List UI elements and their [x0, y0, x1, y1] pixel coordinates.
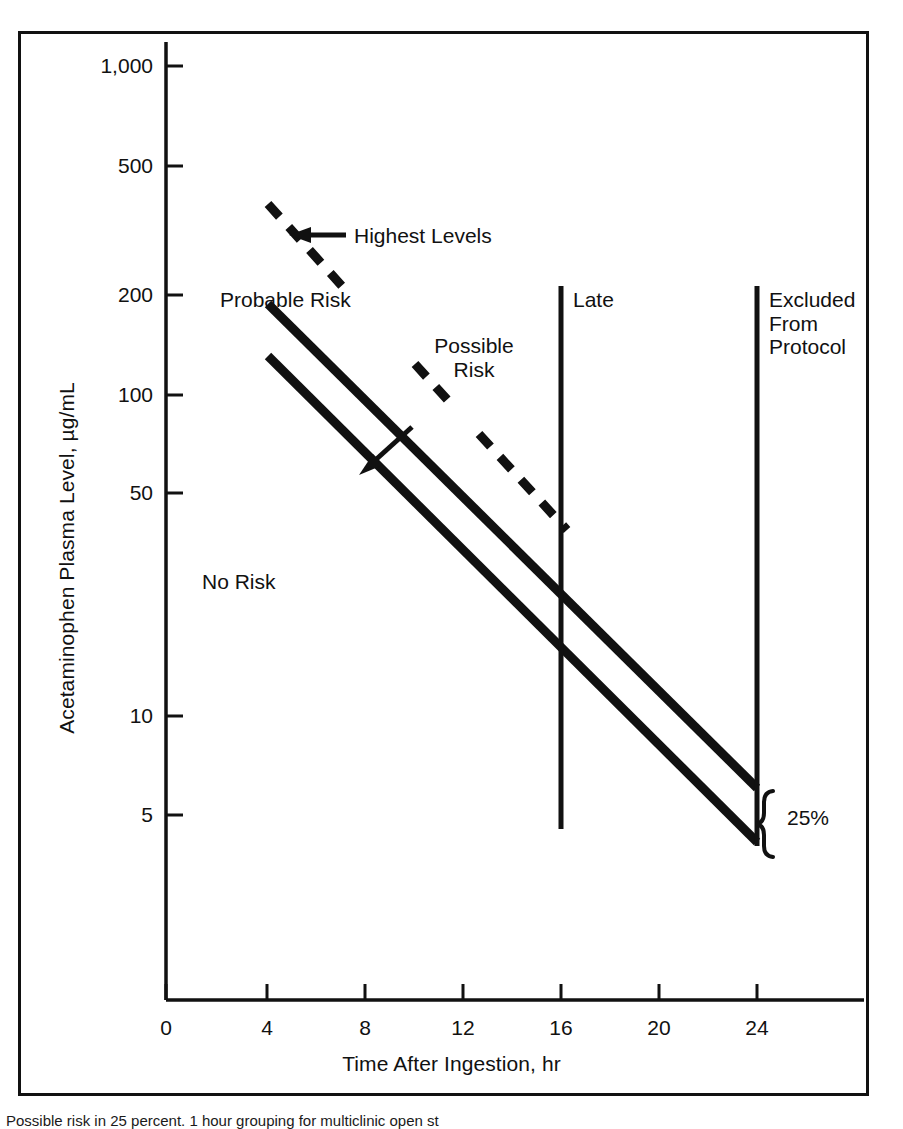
possible-risk-line [268, 356, 757, 842]
highest-levels-dashed-upper [268, 204, 351, 296]
y-tick-label-5: 5 [69, 803, 153, 827]
x-tick-label-4: 4 [261, 1016, 273, 1040]
x-tick-label-8: 8 [359, 1016, 371, 1040]
x-tick-label-20: 20 [647, 1016, 670, 1040]
x-tick-label-16: 16 [549, 1016, 572, 1040]
figure-frame: 1,000 500 200 100 50 10 5 0 4 8 12 16 20… [18, 31, 869, 1096]
y-tick-label-50: 50 [69, 481, 153, 505]
y-tick-label-10: 10 [69, 704, 153, 728]
annotation-highest-levels: Highest Levels [354, 224, 492, 248]
x-tick-label-24: 24 [745, 1016, 768, 1040]
y-tick-label-500: 500 [69, 154, 153, 178]
x-tick-label-12: 12 [451, 1016, 474, 1040]
x-axis-ticks [166, 984, 757, 1000]
annotation-excluded-from-protocol: Excluded From Protocol [769, 288, 855, 359]
annotation-probable-risk: Probable Risk [220, 288, 351, 312]
annotation-possible-risk: Possible Risk [418, 334, 530, 381]
annotation-twenty-five-percent: 25% [787, 806, 829, 830]
annotation-late: Late [573, 288, 614, 312]
y-tick-label-200: 200 [69, 283, 153, 307]
figure-caption: Possible risk in 25 percent. 1 hour grou… [6, 1112, 903, 1129]
highest-levels-dashed-lower [479, 434, 567, 530]
x-axis-title: Time After Ingestion, hr [0, 1052, 903, 1076]
y-tick-label-1000: 1,000 [69, 54, 153, 78]
annotation-no-risk: No Risk [202, 570, 276, 594]
x-tick-label-0: 0 [160, 1016, 172, 1040]
y-axis-title: Acetaminophen Plasma Level, µg/mL [55, 298, 79, 818]
y-tick-label-100: 100 [69, 383, 153, 407]
nomogram-plot [21, 34, 866, 1093]
y-axis-ticks [166, 66, 183, 815]
